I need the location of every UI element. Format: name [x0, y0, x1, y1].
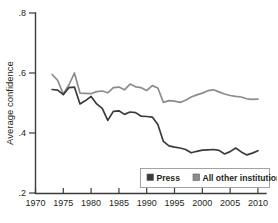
x-tick-label-2005: 2005	[220, 198, 240, 208]
chart-legend: PressAll other institutions	[141, 169, 278, 188]
y-tick-label-.6: .6	[18, 68, 26, 78]
series-line-press	[52, 87, 258, 155]
x-tick-label-1985: 1985	[109, 198, 129, 208]
legend-items: PressAll other institutions	[147, 173, 277, 183]
chart-figure: .2.4.6.8 1970197519801985199019952000200…	[0, 0, 277, 223]
x-axis: 197019751980198519901995200020052010	[25, 188, 267, 208]
x-tick-label-1970: 1970	[25, 198, 45, 208]
x-tick-label-2010: 2010	[248, 198, 268, 208]
legend-label-press: Press	[157, 173, 181, 183]
y-tick-label-.8: .8	[18, 8, 26, 18]
y-tick-label-.2: .2	[18, 188, 26, 198]
y-tick-group: .2.4.6.8	[18, 8, 35, 198]
y-axis: .2.4.6.8	[18, 8, 35, 198]
x-tick-label-1990: 1990	[137, 198, 157, 208]
series-group	[52, 73, 258, 155]
y-axis-label: Average confidence	[4, 61, 15, 145]
x-tick-label-1980: 1980	[81, 198, 101, 208]
legend-swatch-all-other-institutions	[193, 174, 200, 181]
legend-label-all-other-institutions: All other institutions	[203, 173, 278, 183]
line-chart: .2.4.6.8 1970197519801985199019952000200…	[0, 0, 277, 223]
y-tick-label-.4: .4	[18, 128, 26, 138]
x-tick-label-2000: 2000	[192, 198, 212, 208]
series-line-all-other-institutions	[52, 73, 258, 102]
x-tick-group: 197019751980198519901995200020052010	[25, 188, 267, 208]
x-tick-label-1995: 1995	[165, 198, 185, 208]
legend-swatch-press	[147, 174, 154, 181]
x-tick-label-1975: 1975	[53, 198, 73, 208]
